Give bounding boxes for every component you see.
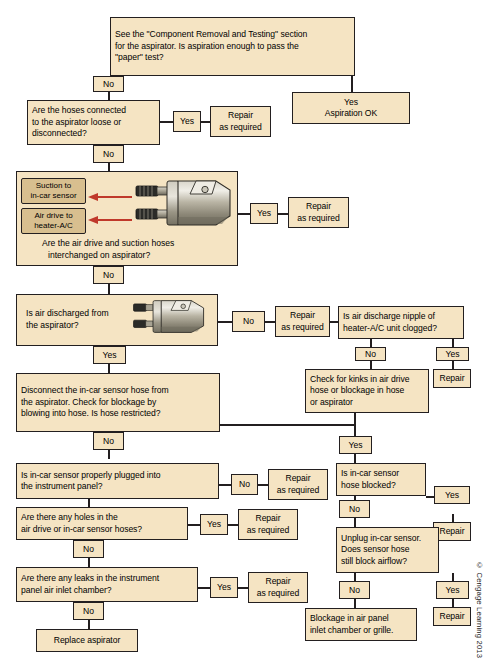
connector-yes5-to-hoseblocked (354, 454, 356, 463)
node-leaks-chamber: Are there any leaks in the instrument pa… (16, 567, 198, 602)
disconnect-line2: the aspirator. Check for blockage by (21, 397, 156, 408)
connector-yes2-to-repair2 (278, 213, 288, 215)
connector-no8-to-repair5 (258, 484, 268, 486)
connector-no11-to-blockage (354, 599, 356, 608)
node-repair-9: Repair as required (248, 572, 308, 603)
tag-no-9: No (73, 540, 104, 558)
connector-yes6-to-repair6 (452, 514, 454, 522)
repair9-line1: Repair (265, 576, 290, 587)
connector-hoses-to-yes1 (160, 121, 173, 123)
connector-unplug-to-yes9 (452, 573, 454, 581)
repair9-line2: as required (257, 588, 299, 599)
arrow-suction-icon (88, 192, 132, 202)
connector-sensorplugged-to-no8 (219, 484, 231, 486)
connector-yes9-to-repair8 (452, 599, 454, 607)
connector-no9-to-leaks (88, 558, 90, 567)
tag-yes-7: Yes (200, 514, 228, 535)
repair8-line1: Repair (439, 611, 464, 622)
node-repair-1: Repair as required (210, 106, 271, 137)
holes-line2: air drive or in-car sensor hoses? (21, 524, 142, 535)
connector-yes7-to-repair7 (228, 524, 238, 526)
airdischarged-line1: Is air discharged from (26, 308, 109, 319)
connector-no6-to-sensorplugged (108, 450, 110, 459)
holes-line1: Are there any holes in the (21, 512, 118, 523)
connector-no4-to-repair3 (265, 321, 275, 323)
node-start-question: See the "Component Removal and Testing" … (110, 17, 355, 76)
leaks-line1: Are there any leaks in the instrument (21, 573, 159, 584)
repair1-line1: Repair (228, 110, 253, 121)
label-air-drive-to-heater-ac: Air drive to heater-A/C (21, 208, 86, 234)
nipple-line1: Is air discharge nipple of (343, 311, 435, 322)
connector-interchanged-to-yes2 (238, 213, 250, 215)
tag-no-11: No (339, 581, 370, 599)
connector-no10-to-replace (88, 620, 90, 629)
disconnect-line3: blowing into hose. Is hose restricted? (21, 408, 161, 419)
connector-yes4-to-disconnect (108, 364, 110, 373)
connector-nipple-to-no5 (370, 339, 372, 347)
node-repair-4: Repair (433, 369, 471, 388)
checkkinks-line2: hose or blockage in hose (310, 385, 404, 396)
aspiration-ok-line1: Yes (344, 97, 358, 108)
label-airdrive-line2: heater-A/C (34, 221, 73, 231)
hoses-line2: to the aspirator loose or (32, 117, 121, 128)
node-disconnect-hose: Disconnect the in-car sensor hose from t… (16, 373, 220, 432)
start-line2: for the aspirator. Is aspiration enough … (115, 41, 299, 52)
tag-no-8: No (231, 474, 258, 495)
connector-yes8-to-repair9 (238, 587, 248, 589)
tag-no-7: No (339, 500, 370, 518)
node-hose-blocked: Is in-car sensor hose blocked? (336, 463, 426, 496)
node-holes-hoses: Are there any holes in the air drive or … (16, 507, 188, 540)
leaks-line2: panel air inlet chamber? (21, 585, 112, 596)
repair3-line2: as required (281, 322, 323, 333)
connector-no7-to-unplug (354, 518, 356, 527)
tag-yes-3: Yes (436, 347, 469, 361)
arrow-airdrive-icon (88, 215, 132, 225)
connector-no5-to-checkkinks (370, 361, 372, 369)
connector-yes1-to-repair1 (200, 121, 210, 123)
connector-no2-to-interchanged (108, 163, 110, 171)
nipple-line2: heater-A/C unit clogged? (343, 323, 437, 334)
connector-no3-to-airdischarged (108, 284, 110, 294)
aspirator-illustration-large (132, 176, 236, 240)
node-hoses-connected: Are the hoses connected to the aspirator… (27, 100, 160, 145)
tag-yes-6: Yes (434, 486, 470, 504)
label-airdrive-line1: Air drive to (34, 211, 72, 221)
hoseblocked-line2: hose blocked? (341, 480, 396, 491)
tag-no-1: No (93, 76, 124, 92)
checkkinks-line3: or aspirator (310, 397, 353, 408)
start-line3: "paper" test? (115, 52, 163, 63)
connector-airdischarged-to-no4 (218, 321, 232, 323)
connector-no1-to-hoses (108, 92, 110, 100)
airdischarged-line2: the aspirator? (26, 320, 79, 331)
sensorplugged-line1: Is in-car sensor properly plugged into (21, 470, 161, 481)
label-suction-line1: Suction to (36, 181, 72, 191)
interchanged-caption-line2: interchanged on aspirator? (48, 250, 150, 261)
node-sensor-plugged: Is in-car sensor properly plugged into t… (16, 463, 219, 499)
connector-nipple-to-yes3 (452, 339, 454, 347)
node-repair-3: Repair as required (275, 306, 330, 337)
connector-checkkinks-to-junction (354, 413, 356, 425)
unplug-line1: Unplug in-car sensor. (341, 533, 421, 544)
repair3-line1: Repair (290, 310, 315, 321)
tag-yes-5: Yes (339, 436, 372, 454)
hoses-line1: Are the hoses connected (32, 105, 126, 116)
node-unplug-sensor: Unplug in-car sensor. Does sensor hose s… (336, 527, 439, 573)
connector-unplug-to-no11 (354, 573, 356, 581)
disconnect-line1: Disconnect the in-car sensor hose from (21, 385, 169, 396)
checkkinks-line1: Check for kinks in air drive (310, 374, 409, 385)
node-repair-2: Repair as required (288, 197, 349, 228)
connector-holes-to-yes7 (188, 524, 200, 526)
blockage-line1: Blockage in air panel (310, 613, 389, 624)
tag-no-5: No (355, 347, 386, 361)
hoseblocked-line1: Is in-car sensor (341, 468, 399, 479)
aspirator-illustration-small (128, 299, 214, 343)
aspiration-ok-line2: Aspiration OK (325, 108, 377, 119)
node-repair-5: Repair as required (268, 469, 328, 500)
connector-start-to-aspiration-ok (351, 76, 353, 92)
node-repair-7: Repair as required (238, 509, 298, 540)
repair1-line2: as required (219, 122, 261, 133)
flowchart-canvas: See the "Component Removal and Testing" … (0, 0, 485, 664)
repair7-line2: as required (247, 525, 289, 536)
connector-yes3-to-repair4 (452, 361, 454, 369)
sensorplugged-line2: the instrument panel? (21, 481, 103, 492)
